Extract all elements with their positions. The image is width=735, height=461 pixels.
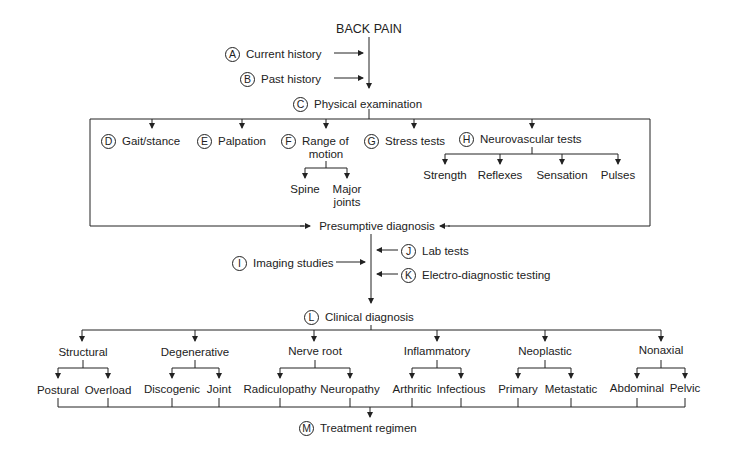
letter-j-badge: J (401, 244, 416, 259)
rom-joints: joints (334, 196, 361, 209)
step-label: Neurovascular tests (480, 133, 582, 145)
sub-infectious: Infectious (436, 383, 485, 396)
letter-a-badge: A (225, 47, 240, 62)
letter-f-badge: F (281, 134, 296, 149)
step-label: Palpation (218, 135, 266, 147)
step-j: JLab tests (401, 244, 469, 259)
step-i: IImaging studies (232, 256, 334, 271)
step-label: Electro-diagnostic testing (422, 269, 550, 281)
step-label: Clinical diagnosis (325, 311, 414, 323)
step-label: Physical examination (314, 98, 422, 110)
neuro-pulses: Pulses (601, 169, 636, 182)
sub-arthritic: Arthritic (393, 383, 432, 396)
sub-abdominal: Abdominal (610, 382, 664, 395)
letter-m-badge: M (299, 421, 314, 436)
sub-primary: Primary (498, 383, 538, 396)
step-label: Treatment regimen (320, 422, 417, 434)
sub-metastatic: Metastatic (545, 383, 597, 396)
letter-c-badge: C (293, 97, 308, 112)
step-d: DGait/stance (101, 134, 180, 149)
step-g: GStress tests (364, 134, 445, 149)
rom-spine: Spine (290, 183, 319, 196)
letter-k-badge: K (401, 268, 416, 283)
neuro-sensation: Sensation (536, 169, 587, 182)
step-l: LClinical diagnosis (304, 310, 414, 325)
sub-joint: Joint (207, 383, 231, 396)
sub-discogenic: Discogenic (144, 383, 200, 396)
step-m: MTreatment regimen (299, 421, 417, 436)
sub-postural: Postural (37, 384, 79, 397)
letter-g-badge: G (364, 134, 379, 149)
step-label: Past history (261, 73, 321, 85)
letter-d-badge: D (101, 134, 116, 149)
rom-major: Major (333, 183, 362, 196)
sub-radiculopathy: Radiculopathy (244, 383, 317, 396)
step-k: KElectro-diagnostic testing (401, 268, 550, 283)
step-label: Lab tests (422, 245, 469, 257)
step-a: ACurrent history (225, 47, 321, 62)
step-f-line2: motion (309, 148, 344, 161)
category-neoplastic: Neoplastic (518, 345, 572, 358)
sub-overload: Overload (85, 384, 132, 397)
step-c: CPhysical examination (293, 97, 422, 112)
letter-e-badge: E (197, 134, 212, 149)
step-label: Stress tests (385, 135, 445, 147)
category-inflammatory: Inflammatory (404, 345, 470, 358)
step-b: BPast history (240, 72, 321, 87)
step-h: HNeurovascular tests (459, 132, 582, 147)
sub-pelvic: Pelvic (670, 382, 701, 395)
step-label: Current history (246, 48, 321, 60)
step-e: EPalpation (197, 134, 266, 149)
step-label: Range of (302, 135, 349, 147)
step-label: Gait/stance (122, 135, 180, 147)
neuro-strength: Strength (423, 169, 466, 182)
sub-neuropathy: Neuropathy (320, 383, 379, 396)
step-label: Imaging studies (253, 257, 334, 269)
neuro-reflexes: Reflexes (478, 169, 523, 182)
category-nonaxial: Nonaxial (639, 344, 684, 357)
category-nerve-root: Nerve root (288, 345, 342, 358)
category-structural: Structural (58, 346, 107, 359)
diagram-title: BACK PAIN (336, 23, 402, 36)
step-f: FRange of (281, 134, 349, 149)
presumptive-diagnosis: Presumptive diagnosis (319, 220, 435, 233)
letter-i-badge: I (232, 256, 247, 271)
letter-l-badge: L (304, 310, 319, 325)
category-degenerative: Degenerative (161, 346, 229, 359)
letter-b-badge: B (240, 72, 255, 87)
letter-h-badge: H (459, 132, 474, 147)
